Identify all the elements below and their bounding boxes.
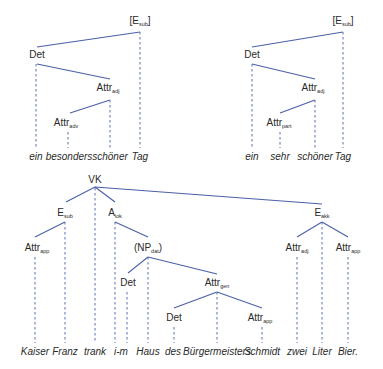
edge-vk-eakk [95,187,322,204]
node-attrapp: Attrapp [25,242,50,254]
node-npdat: (NPdat) [134,242,162,254]
word: Bürgermeisters [183,346,251,357]
node-esub: [Esub] [129,15,150,27]
node-alok: Alok [108,207,122,219]
word: i-m [114,346,128,357]
edge-alok-npdat [115,222,148,237]
edge-attradj-attrpart [280,100,315,113]
edge-vk-esub [66,187,95,202]
word: ein [245,151,259,162]
word: Haus [136,346,159,357]
node-det: Det [244,49,260,60]
word: schöner [92,151,128,162]
edge-npdat-det [128,257,148,273]
node-vk: VK [88,174,102,185]
word: Schmidt [244,346,281,357]
node-attrapp2: Attrapp [248,312,273,324]
word: ein [29,151,43,162]
node-det: Det [120,277,136,288]
word: schöner [297,151,333,162]
node-det2: Det [166,312,182,323]
edge-eakk-attrapp [322,222,348,237]
word: trank [84,346,107,357]
node-attrpart: Attrpart [266,117,292,129]
edge-det-attradj [252,64,315,79]
node-attrapp3: Attrapp [336,242,361,254]
tree-top-right: [Esub] Det Attradj Attrpart ein sehr sch… [244,15,354,162]
tree-bottom: VK Esub Alok Attrapp (NPdat) Det Attrgen… [21,174,361,357]
dependency-diagram: [Esub] Det Attradj Attradv ein besonders… [0,0,383,369]
edge-det-esub [252,32,343,47]
word: besonders [46,151,93,162]
edge-npdat-attrgen [148,257,217,274]
node-attradj: Attradj [302,82,325,94]
edge-det-esub [37,32,140,47]
tree-top-left: [Esub] Det Attradj Attradv ein besonders… [29,15,151,162]
edge-vk-alok [95,187,115,202]
node-attrgen: Attrgen [205,277,230,289]
node-eakk: Eakk [314,207,329,219]
word: Tag [335,151,352,162]
word: Tag [132,151,149,162]
word: Liter [312,346,332,357]
word: des [165,346,181,357]
word: Bier. [338,346,358,357]
node-det: Det [29,49,45,60]
node-attradj: Attradj [286,242,309,254]
edge-attradj-attradv [70,100,110,113]
edge-attrgen-attrapp [217,292,262,308]
word: sehr [270,151,290,162]
word: zwei [286,346,308,357]
edge-esub-attrapp [35,222,65,237]
edge-attrgen-det [174,292,217,308]
node-attradj: Attradj [97,82,120,94]
node-esub: [Esub] [332,15,353,27]
word: Franz [52,346,78,357]
node-esub: Esub [57,207,73,219]
edge-det-attradj [37,64,110,79]
edge-eakk-attradj [297,222,322,237]
word: Kaiser [21,346,50,357]
node-attradv: Attradv [54,117,79,129]
